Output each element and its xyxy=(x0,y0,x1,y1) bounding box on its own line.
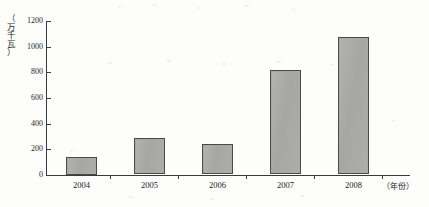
x-label-2004: 2004 xyxy=(62,180,102,190)
y-tick-1200 xyxy=(47,21,51,22)
x-label-2006: 2006 xyxy=(198,180,238,190)
x-label-2007: 2007 xyxy=(266,180,306,190)
bar-fill xyxy=(136,140,163,174)
x-label-2008: 2008 xyxy=(334,180,374,190)
scan-speckle xyxy=(210,198,214,200)
scan-speckle xyxy=(166,60,171,62)
bar-fill xyxy=(272,72,299,174)
bar-2005 xyxy=(134,138,165,175)
scan-speckle xyxy=(128,196,134,198)
scan-speckle xyxy=(108,62,112,64)
scan-speckle xyxy=(292,8,295,10)
scan-speckle xyxy=(70,150,73,152)
y-tick-400 xyxy=(47,124,51,125)
x-tick xyxy=(382,175,383,179)
bar-chart: （ 万 千 瓦 ） 1200 1000 800 600 400 200 0 20… xyxy=(0,0,429,207)
bar-fill xyxy=(340,39,367,174)
x-label-2005: 2005 xyxy=(130,180,170,190)
bar-2008 xyxy=(338,37,369,175)
y-tick-label: 200 xyxy=(17,144,43,153)
x-tick xyxy=(246,175,247,179)
y-tick-label: 0 xyxy=(17,170,43,179)
scan-speckle xyxy=(118,6,121,8)
y-tick-800 xyxy=(47,72,51,73)
scan-speckle xyxy=(392,120,395,122)
scan-speckle xyxy=(152,4,157,6)
scan-speckle xyxy=(243,5,249,7)
scan-speckle xyxy=(300,195,305,197)
scan-speckle xyxy=(196,7,200,9)
bar-2004 xyxy=(66,157,97,175)
y-tick-label: 800 xyxy=(17,67,43,76)
scan-speckle xyxy=(330,64,333,66)
y-tick-label: 600 xyxy=(17,93,43,102)
x-tick xyxy=(110,175,111,179)
scan-speckle xyxy=(222,63,226,65)
bar-fill xyxy=(68,159,95,174)
bar-2006 xyxy=(202,144,233,174)
y-tick-label: 1000 xyxy=(17,42,43,51)
x-tick xyxy=(314,175,315,179)
y-tick-label: 400 xyxy=(17,119,43,128)
scan-speckle xyxy=(276,61,281,63)
y-tick-label: 1200 xyxy=(17,16,43,25)
x-axis-line xyxy=(46,175,410,176)
y-tick-1000 xyxy=(47,47,51,48)
x-tick xyxy=(178,175,179,179)
y-tick-600 xyxy=(47,98,51,99)
bar-fill xyxy=(204,146,231,173)
y-tick-200 xyxy=(47,149,51,150)
bar-2007 xyxy=(270,70,301,175)
x-axis-label: （年份） xyxy=(382,180,414,191)
